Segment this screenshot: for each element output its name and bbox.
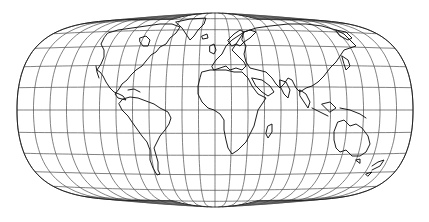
coastline-australia <box>334 120 370 156</box>
coastline-africa <box>198 70 266 154</box>
coastline-new-zealand <box>366 160 384 176</box>
coastline-caribbean <box>128 89 140 92</box>
world-map-svg <box>0 0 429 222</box>
coastline-scandinavia <box>228 30 244 46</box>
coastline-madagascar <box>266 124 272 138</box>
coastline-southeast-asia <box>300 90 310 108</box>
graticule <box>17 13 413 207</box>
world-map: flat-polar equal-area world map <box>0 0 429 222</box>
coastline-south-america <box>119 97 171 175</box>
coastline-iceland <box>202 34 208 39</box>
coastline-tasmania <box>356 159 360 163</box>
coastline-europe <box>212 30 256 70</box>
coastlines <box>96 18 384 176</box>
